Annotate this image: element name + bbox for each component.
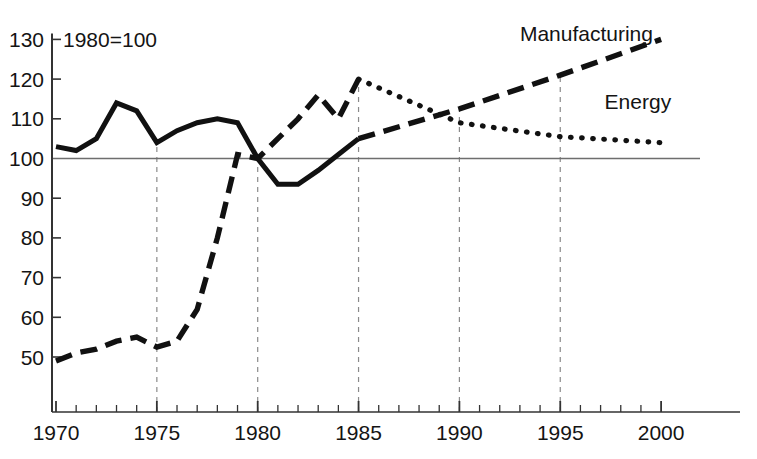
y-tick-label-100: 100	[9, 147, 44, 170]
chart-background	[0, 0, 757, 459]
y-tick-label-50: 50	[21, 346, 44, 369]
y-tick-label-120: 120	[9, 68, 44, 91]
x-tick-label-1985: 1985	[335, 421, 382, 444]
x-tick-label-1980: 1980	[234, 421, 281, 444]
y-tick-label-130: 130	[9, 28, 44, 51]
x-tick-label-1975: 1975	[133, 421, 180, 444]
series-label-manufacturing: Manufacturing	[520, 22, 653, 45]
x-tick-label-1970: 1970	[33, 421, 80, 444]
chart-figure: 5060708090100110120130 19701975198019851…	[0, 0, 757, 459]
x-tick-label-1995: 1995	[537, 421, 584, 444]
y-tick-label-90: 90	[21, 187, 44, 210]
x-tick-label-2000: 2000	[638, 421, 685, 444]
y-tick-label-70: 70	[21, 266, 44, 289]
y-tick-label-110: 110	[11, 107, 44, 130]
series-label-energy: Energy	[605, 90, 672, 113]
y-tick-label-80: 80	[21, 226, 44, 249]
y-tick-label-60: 60	[21, 306, 44, 329]
line-chart: 5060708090100110120130 19701975198019851…	[0, 0, 757, 459]
index-note: 1980=100	[63, 28, 157, 51]
x-tick-label-1990: 1990	[436, 421, 483, 444]
